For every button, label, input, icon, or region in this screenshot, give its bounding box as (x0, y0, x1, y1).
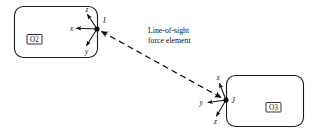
axis-right-z-label: z (213, 117, 217, 126)
body-right-group: O3 x y z J (199, 73, 304, 127)
body-left-group: O2 z x y I (15, 5, 107, 58)
line-of-sight-connector: Line-of-sight force element (102, 26, 222, 98)
attachment-point-j-dot (223, 97, 228, 102)
attachment-point-i-label: I (102, 16, 106, 25)
body-right-tag-label: O3 (269, 104, 278, 112)
diagram-canvas: O2 z x y I Line-of-sight force element O… (0, 0, 318, 139)
axis-right-y (208, 100, 226, 103)
axis-right-y-label: y (199, 98, 204, 107)
axis-right-x (220, 84, 227, 101)
axis-right-x-label: x (216, 73, 221, 82)
body-right-outline (227, 76, 304, 127)
connector-label-line-1: Line-of-sight (148, 26, 190, 35)
axis-right-z (217, 100, 227, 116)
frame-right-axes (208, 84, 226, 117)
connector-label-line-2: force element (148, 36, 191, 45)
body-left-tag-label: O2 (30, 36, 39, 44)
diagram-svg: O2 z x y I Line-of-sight force element O… (0, 0, 318, 139)
axis-left-z-label: z (85, 5, 89, 14)
attachment-point-i-dot (94, 26, 99, 31)
axis-left-y-label: y (84, 47, 89, 56)
axis-left-x-label: x (69, 24, 74, 33)
